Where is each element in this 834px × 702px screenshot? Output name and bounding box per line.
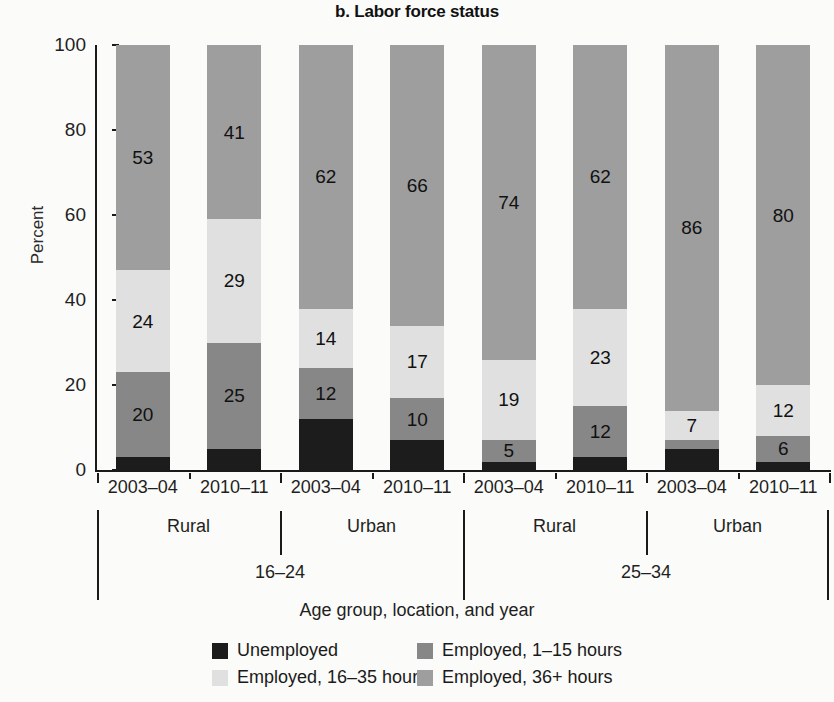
legend-swatch-icon [212, 670, 228, 686]
bar-segment-label: 12 [315, 384, 336, 403]
bar-column: 74195 [482, 45, 536, 470]
legend-swatch-icon [417, 643, 433, 659]
bar-segment-label: 24 [132, 312, 153, 331]
bar-column: 80126 [756, 45, 810, 470]
legend-item: Unemployed [212, 640, 417, 661]
legend-label: Employed, 36+ hours [442, 667, 613, 688]
x-tick-label-year: 2010–11 [555, 477, 647, 498]
x-tick-label-year: 2010–11 [738, 477, 830, 498]
bar-segment-label: 29 [224, 271, 245, 290]
bar-segment-label: 62 [590, 167, 611, 186]
x-axis-tick [829, 473, 831, 483]
x-tick-label-year: 2003–04 [463, 477, 555, 498]
plot-area: 5324204129256214126617107419562231286780… [97, 45, 829, 470]
bar-segment-label: 19 [498, 390, 519, 409]
bar-segment: 10 [390, 398, 444, 441]
x-tick-label-location: Rural [97, 516, 280, 537]
x-tick-label-year: 2010–11 [372, 477, 464, 498]
bar-segment [207, 449, 261, 470]
bar-segment [665, 449, 719, 470]
bar-segment-label: 41 [224, 123, 245, 142]
x-axis-tick [97, 473, 99, 483]
bar-segment: 53 [116, 45, 170, 270]
bar-segment: 66 [390, 45, 444, 326]
x-axis-group-boundary [463, 510, 465, 600]
bar-segment-label: 6 [778, 439, 789, 458]
legend-item: Employed, 16–35 hours [212, 667, 417, 688]
bar-segment-label: 5 [503, 441, 514, 460]
bar-segment: 86 [665, 45, 719, 411]
bar-segment: 23 [573, 309, 627, 407]
bar-column: 532420 [116, 45, 170, 470]
y-tick-label: 20 [26, 374, 86, 396]
bar-segment-label: 25 [224, 386, 245, 405]
bar-segment-label: 10 [407, 410, 428, 429]
x-tick-label-age: 25–34 [463, 562, 829, 583]
y-tick-label: 80 [26, 119, 86, 141]
x-axis-tick [280, 473, 282, 483]
bar-segment: 7 [665, 411, 719, 441]
y-axis-ticks: 100806040200 [24, 0, 86, 702]
legend-item: Employed, 1–15 hours [417, 640, 632, 661]
bar-segment [482, 462, 536, 471]
bar-segment: 62 [299, 45, 353, 309]
chart-legend: UnemployedEmployed, 1–15 hoursEmployed, … [212, 640, 632, 688]
bar-segment: 74 [482, 45, 536, 360]
x-tick-label-location: Rural [463, 516, 646, 537]
bar-segment: 6 [756, 436, 810, 462]
y-tick-label: 40 [26, 289, 86, 311]
bar-segment [665, 440, 719, 449]
bar-column: 622312 [573, 45, 627, 470]
legend-swatch-icon [417, 670, 433, 686]
bar-segment-label: 80 [773, 206, 794, 225]
x-axis-separator [280, 511, 282, 555]
bar-segment: 14 [299, 309, 353, 369]
bar-segment-label: 20 [132, 405, 153, 424]
figure-panel: b. Labor force status Percent 1008060402… [0, 0, 834, 702]
x-axis-tick [738, 473, 740, 479]
y-tick-label: 0 [26, 459, 86, 481]
bar-segment: 41 [207, 45, 261, 219]
x-axis-title: Age group, location, and year [0, 600, 834, 621]
bar-segment-label: 17 [407, 352, 428, 371]
x-axis-tick [189, 473, 191, 479]
bar-column: 621412 [299, 45, 353, 470]
bar-segment [299, 419, 353, 470]
x-axis-group-boundary [827, 510, 829, 600]
legend-item: Employed, 36+ hours [417, 667, 632, 688]
bar-segment-label: 14 [315, 329, 336, 348]
x-tick-label-location: Urban [646, 516, 829, 537]
bar-segment: 25 [207, 343, 261, 449]
bar-segment: 80 [756, 45, 810, 385]
bar-column: 867 [665, 45, 719, 470]
bar-segment: 29 [207, 219, 261, 342]
x-tick-label-year: 2010–11 [189, 477, 281, 498]
y-tick-label: 100 [26, 34, 86, 56]
x-tick-label-location: Urban [280, 516, 463, 537]
bar-column: 412925 [207, 45, 261, 470]
y-tick-label: 60 [26, 204, 86, 226]
x-axis-tick [463, 473, 465, 483]
legend-label: Employed, 16–35 hours [237, 667, 427, 688]
x-axis-tick [372, 473, 374, 479]
bar-segment [756, 462, 810, 471]
bar-segment-label: 74 [498, 193, 519, 212]
bar-segment-label: 7 [686, 416, 697, 435]
bar-segment: 12 [756, 385, 810, 436]
x-axis-tier-age: 16–2425–34 [97, 562, 829, 588]
bar-segment-label: 86 [681, 218, 702, 237]
x-axis-group-boundary [97, 510, 99, 600]
chart-title: b. Labor force status [0, 2, 834, 22]
bar-segment: 19 [482, 360, 536, 441]
bar-segment-label: 53 [132, 148, 153, 167]
x-tick-label-year: 2003–04 [280, 477, 372, 498]
x-axis-tick [555, 473, 557, 479]
bar-segment-label: 12 [773, 401, 794, 420]
legend-label: Unemployed [237, 640, 338, 661]
bar-segment-label: 66 [407, 176, 428, 195]
x-axis-separator [646, 511, 648, 555]
bar-segment: 12 [299, 368, 353, 419]
bar-segment-label: 23 [590, 348, 611, 367]
bar-segment: 24 [116, 270, 170, 372]
x-tick-label-age: 16–24 [97, 562, 463, 583]
